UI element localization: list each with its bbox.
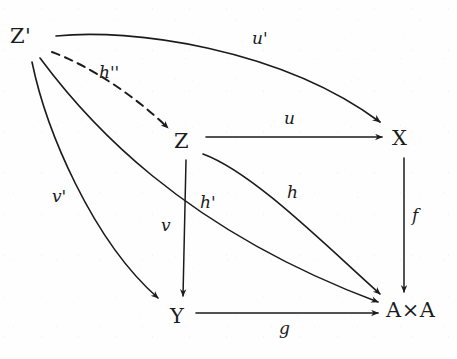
- commutative-diagram: Z' Z X Y A×A u' h'' h' v' u h v f g: [0, 0, 457, 359]
- edge-path-v-prime: [32, 62, 158, 298]
- edge-label-v: v: [161, 217, 171, 234]
- node-y: Y: [170, 306, 184, 327]
- edge-label-u: u: [284, 110, 295, 127]
- node-z-prime: Z': [10, 26, 31, 47]
- edge-path-h: [203, 154, 380, 294]
- edge-label-u-prime: u': [252, 30, 268, 47]
- edge-label-h-prime: h': [200, 194, 216, 211]
- edge-label-f: f: [412, 207, 418, 224]
- edge-path-v: [183, 160, 186, 296]
- node-a-times-a: A×A: [386, 300, 435, 321]
- node-z: Z: [174, 131, 189, 152]
- node-x: X: [392, 128, 407, 149]
- edge-label-h-double-prime: h'': [99, 64, 119, 81]
- edge-label-g: g: [279, 320, 290, 337]
- edge-path-h-prime: [40, 58, 378, 302]
- edge-label-v-prime: v': [52, 188, 66, 205]
- edge-label-h: h: [287, 184, 298, 201]
